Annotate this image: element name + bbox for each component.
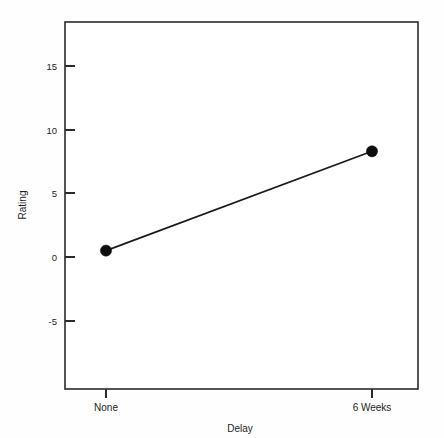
plot-frame [65,22,418,389]
x-tick-label-none: None [94,402,118,413]
x-axis-ticks [106,389,372,398]
data-point-none [100,245,111,256]
y-tick-label-0: 0 [52,252,57,263]
x-axis-title: Delay [227,423,253,434]
y-tick-label-neg5: -5 [49,316,57,327]
x-tick-label-6-weeks: 6 Weeks [353,402,392,413]
line-chart: 15 10 5 0 -5 None 6 Weeks Rating Delay [0,0,444,438]
chart-figure: 15 10 5 0 -5 None 6 Weeks Rating Delay [0,0,444,438]
y-axis-title: Rating [17,191,28,220]
y-tick-label-10: 10 [46,125,57,136]
y-tick-label-5: 5 [52,188,57,199]
y-tick-label-15: 15 [46,61,57,72]
data-point-6-weeks [366,146,377,157]
